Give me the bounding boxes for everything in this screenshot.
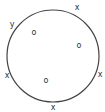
diagram-canvas: x y x x x o o o [0,0,105,112]
interior-mark: o [44,76,49,85]
boundary-mark: x [51,103,56,112]
interior-marks: o o o [32,28,82,85]
interior-mark: o [32,28,37,37]
boundary-mark: x [75,3,80,12]
interior-mark: o [77,41,82,50]
boundary-mark: x [98,70,103,79]
boundary-mark: y [10,20,15,29]
boundary-marks: x y x x x [5,3,103,112]
boundary-circle [7,10,99,102]
boundary-mark: x [5,71,10,80]
